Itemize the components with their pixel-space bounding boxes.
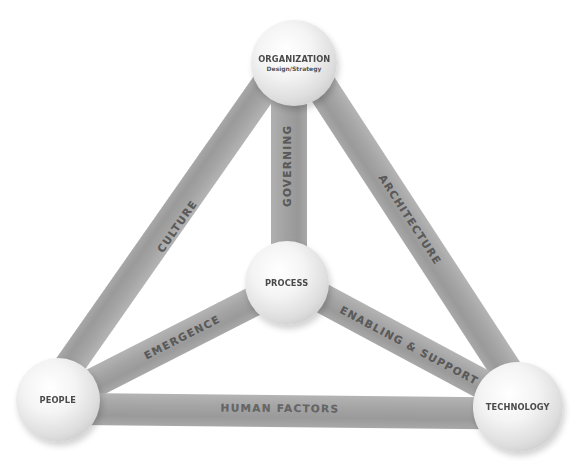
tetrahedron-diagram: CULTURE GOVERNING ARCHITECTURE EMERGENCE… bbox=[0, 0, 580, 464]
node-people: PEOPLE bbox=[16, 358, 100, 442]
node-technology-label: TECHNOLOGY bbox=[486, 402, 550, 412]
edge-label-governing: GOVERNING bbox=[281, 133, 293, 207]
node-organization: ORGANIZATION Design/Strategy bbox=[251, 20, 337, 106]
node-process: PROCESS bbox=[245, 241, 329, 325]
node-organization-sublabel: Design/Strategy bbox=[267, 65, 322, 72]
edge-label-human-factors: HUMAN FACTORS bbox=[215, 401, 345, 414]
node-organization-label: ORGANIZATION bbox=[258, 54, 330, 64]
node-process-label: PROCESS bbox=[265, 278, 308, 288]
node-technology: TECHNOLOGY bbox=[473, 362, 563, 452]
node-people-label: PEOPLE bbox=[40, 395, 76, 405]
